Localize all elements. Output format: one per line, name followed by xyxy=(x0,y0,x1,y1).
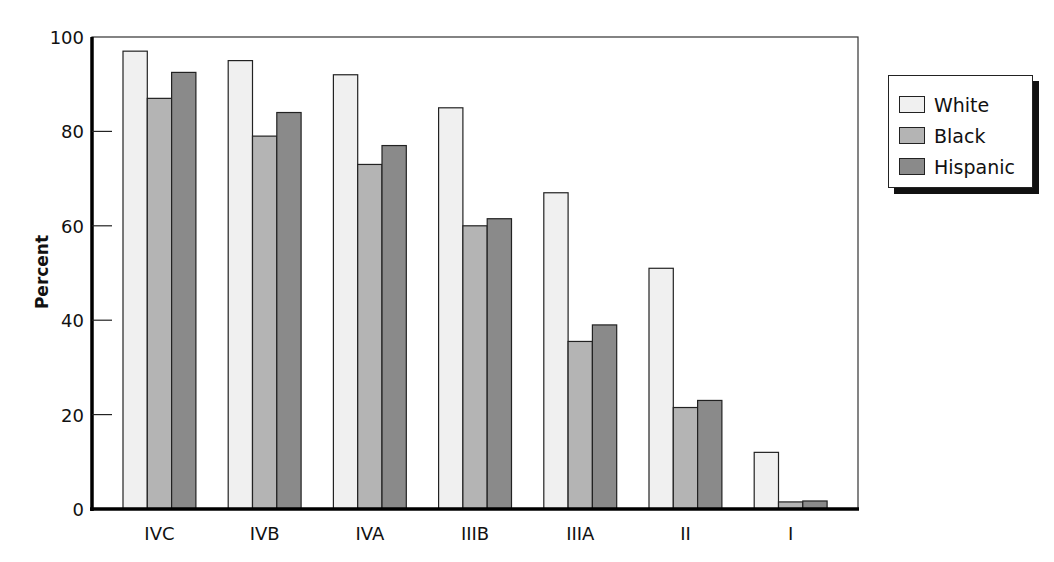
bar-black-ii xyxy=(673,408,697,509)
y-tick-label: 80 xyxy=(61,121,84,142)
bar-white-i xyxy=(754,452,778,509)
x-tick-label: IVC xyxy=(144,523,174,544)
bar-black-ivc xyxy=(147,98,171,509)
legend-label: Hispanic xyxy=(934,156,1015,178)
y-tick-label: 60 xyxy=(61,216,84,237)
bar-black-iva xyxy=(358,164,382,509)
bar-white-iiia xyxy=(544,193,568,509)
legend-swatch-hispanic xyxy=(899,158,925,175)
bar-white-ii xyxy=(649,268,673,509)
x-tick-label: IIIB xyxy=(461,523,489,544)
bar-black-iiib xyxy=(463,226,487,509)
bar-hispanic-iva xyxy=(382,146,406,509)
bar-hispanic-ivb xyxy=(277,113,301,509)
bar-white-iiib xyxy=(439,108,463,509)
y-axis-label: Percent xyxy=(32,235,52,309)
bar-white-iva xyxy=(333,75,357,509)
x-tick-label: IVB xyxy=(250,523,280,544)
legend-item-black: Black xyxy=(899,120,1032,151)
legend-swatch-black xyxy=(899,127,925,144)
y-tick-label: 40 xyxy=(61,310,84,331)
bar-hispanic-ii xyxy=(698,400,722,509)
x-tick-label: I xyxy=(788,523,793,544)
y-tick-label: 100 xyxy=(50,27,84,48)
legend-label: White xyxy=(934,94,989,116)
bar-hispanic-iiia xyxy=(592,325,616,509)
bar-hispanic-iiib xyxy=(487,219,511,509)
bar-black-iiia xyxy=(568,341,592,509)
legend-label: Black xyxy=(934,125,985,147)
bar-white-ivc xyxy=(123,51,147,509)
x-tick-label: IVA xyxy=(355,523,384,544)
bar-white-ivb xyxy=(228,61,252,509)
y-tick-label: 20 xyxy=(61,405,84,426)
bar-hispanic-ivc xyxy=(172,72,196,509)
legend: White Black Hispanic xyxy=(888,75,1033,188)
legend-item-hispanic: Hispanic xyxy=(899,151,1032,182)
bar-black-ivb xyxy=(253,136,277,509)
y-tick-label: 0 xyxy=(73,499,84,520)
x-tick-label: II xyxy=(680,523,691,544)
legend-swatch-white xyxy=(899,96,925,113)
legend-item-white: White xyxy=(899,89,1032,120)
x-tick-label: IIIA xyxy=(566,523,595,544)
